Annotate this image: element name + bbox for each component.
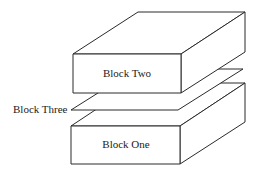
diagram-canvas: Block Two Block One Block Three	[0, 0, 260, 175]
block-two-label: Block Two	[103, 67, 152, 79]
block-three-label: Block Three	[13, 103, 68, 115]
block-one-label: Block One	[102, 138, 149, 150]
stacked-blocks-diagram: Block Two Block One Block Three	[0, 0, 260, 175]
